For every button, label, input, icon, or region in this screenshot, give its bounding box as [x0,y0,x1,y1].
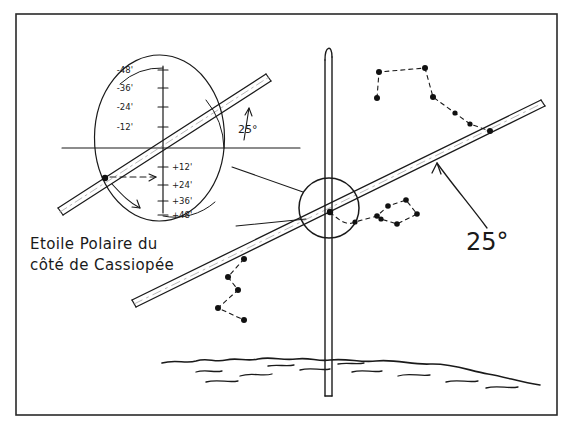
inset-angle-label: 25° [238,123,258,136]
diagram-canvas: -48' -36' -24' -12' +12' +24' +36' +48' … [0,0,572,427]
scale-label-neg-48: -48' [117,65,133,75]
scale-label-neg-12: -12' [117,122,133,132]
angle-callout-label: 25° [466,228,509,256]
caption-line-2: côté de Cassiopée [30,256,174,274]
page-background [0,0,572,427]
scale-label-pos-12: +12' [172,162,192,172]
inset-polaris-dot [102,175,108,181]
scale-label-neg-36: -36' [117,83,133,93]
caption-line-1: Etoile Polaire du [30,235,158,253]
scale-label-neg-24: -24' [117,102,133,112]
hand-drawn-astronomy-diagram: -48' -36' -24' -12' +12' +24' +36' +48' … [0,0,572,427]
scale-label-pos-36: +36' [172,196,192,206]
scale-label-pos-24: +24' [172,180,192,190]
scale-label-pos-48: +48' [172,210,192,220]
